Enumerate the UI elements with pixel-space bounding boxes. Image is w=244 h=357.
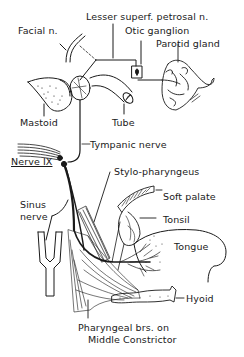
label-parotid-gland: Parotid gland: [156, 38, 220, 49]
dashed-connection: [80, 46, 96, 60]
parotid-gland-shape: [162, 44, 214, 110]
tonsil-shape: [118, 212, 156, 246]
label-tonsil: Tonsil: [163, 214, 190, 225]
label-tube: Tube: [112, 117, 135, 128]
label-facial-nerve: Facial n.: [18, 25, 58, 36]
label-hyoid: Hyoid: [186, 293, 214, 304]
label-sinus-nerve-line1: Sinus: [20, 199, 46, 210]
carotid-vessel-shape: [38, 232, 62, 296]
label-stylo-pharyngeus: Stylo-pharyngeus: [114, 166, 199, 177]
anatomy-diagram: Facial n. Lesser superf. petrosal n. Oti…: [0, 0, 244, 357]
tube-shape: [90, 75, 135, 114]
label-lesser-superficial-petrosal-nerve: Lesser superf. petrosal n.: [86, 11, 208, 22]
label-tongue: Tongue: [174, 241, 209, 252]
label-soft-palate: Soft palate: [163, 191, 216, 202]
label-pharyngeal-branches-line1: Pharyngeal brs. on: [78, 322, 169, 333]
label-nerve-ix: Nerve IX: [11, 156, 52, 167]
hyoid-shape: [112, 286, 184, 303]
tympanic-nerve-line: [68, 100, 90, 162]
soft-palate-shape: [118, 186, 162, 212]
middle-constrictor-shape: [68, 230, 140, 318]
facial-nerve-shape: [60, 34, 85, 62]
label-mastoid: Mastoid: [20, 117, 58, 128]
tongue-shape: [120, 230, 226, 282]
stylopharyngeus-shape: [78, 172, 110, 262]
label-sinus-nerve-line2: nerve: [20, 211, 48, 222]
label-tympanic-nerve: Tympanic nerve: [90, 139, 167, 150]
label-pharyngeal-branches-line2: Middle Constrictor: [88, 334, 177, 345]
mastoid-shape: [28, 78, 72, 116]
label-otic-ganglion: Otic ganglion: [125, 25, 189, 36]
